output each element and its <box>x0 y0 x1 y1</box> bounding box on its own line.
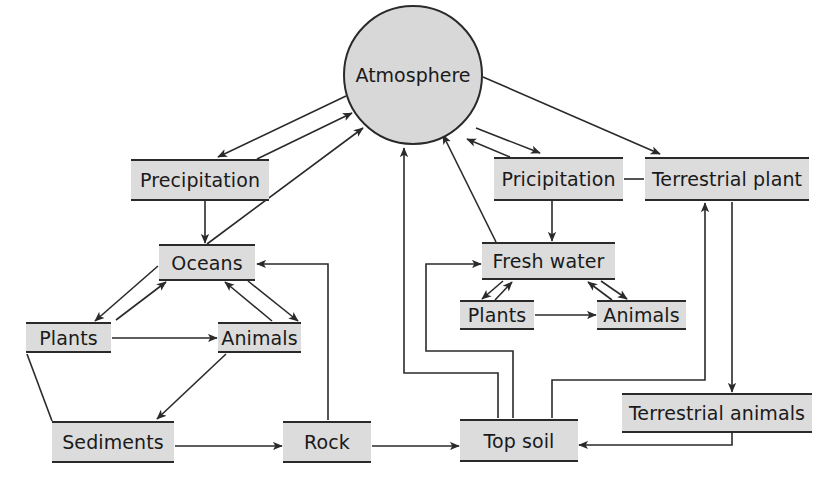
connector-atmosphere-to-precipitation-right <box>476 128 540 153</box>
node-sediments: Sediments <box>52 421 174 463</box>
node-label: Fresh water <box>493 250 605 272</box>
node-label: Atmosphere <box>355 64 470 86</box>
connector-top-soil-to-fresh-water <box>426 264 513 418</box>
node-label: Plants <box>468 304 526 326</box>
node-label: Terrestrial animals <box>629 402 805 424</box>
node-plants-right: Plants <box>460 300 534 330</box>
node-terrestrial-plant: Terrestrial plant <box>645 157 809 201</box>
connector-oceans-to-animals-left <box>248 281 298 321</box>
node-label: Oceans <box>171 252 242 274</box>
connector-fresh-water-to-animals-right <box>601 281 627 299</box>
node-label: Sediments <box>62 431 164 453</box>
node-label: Plants <box>39 327 97 349</box>
connector-plants-left-to-sediments <box>27 354 52 421</box>
node-top-soil: Top soil <box>460 419 578 462</box>
node-label: Rock <box>304 431 350 453</box>
node-oceans: Oceans <box>159 244 255 281</box>
connector-animals-right-to-fresh-water <box>588 282 612 300</box>
connector-plants-left-to-oceans <box>116 282 166 320</box>
node-plants-left: Plants <box>26 322 111 353</box>
connector-precipitation-right-to-atmosphere <box>467 139 510 157</box>
node-rock: Rock <box>283 421 371 463</box>
node-fresh-water: Fresh water <box>482 242 615 280</box>
node-label: Animals <box>221 327 297 349</box>
node-label: Precipitation <box>140 169 260 191</box>
node-precipitation-right: Pricipitation <box>494 157 623 201</box>
connector-atmosphere-to-terrestrial-plant <box>483 77 660 154</box>
connector-fresh-water-to-plants-right <box>482 281 503 299</box>
node-animals-right: Animals <box>597 300 686 330</box>
node-atmosphere: Atmosphere <box>343 5 483 145</box>
connector-animals-left-to-oceans <box>225 282 272 321</box>
node-label: Top soil <box>484 430 555 452</box>
connector-top-soil-to-atmosphere <box>404 148 498 418</box>
connector-terrestrial-animals-to-top-soil <box>579 433 732 445</box>
node-terrestrial-animals: Terrestrial animals <box>622 393 812 433</box>
node-label: Animals <box>603 304 679 326</box>
diagram-canvas: Atmosphere Precipitation Oceans Plants A… <box>0 0 834 493</box>
node-label: Terrestrial plant <box>652 168 802 190</box>
node-animals-left: Animals <box>218 322 301 353</box>
connector-animals-left-to-sediments <box>157 354 226 419</box>
connector-atmosphere-to-precipitation-left <box>218 96 346 157</box>
node-precipitation-left: Precipitation <box>131 159 269 201</box>
node-label: Pricipitation <box>501 168 615 190</box>
connector-fresh-water-to-atmosphere <box>443 135 496 242</box>
connector-precipitation-left-to-atmosphere <box>257 113 352 159</box>
